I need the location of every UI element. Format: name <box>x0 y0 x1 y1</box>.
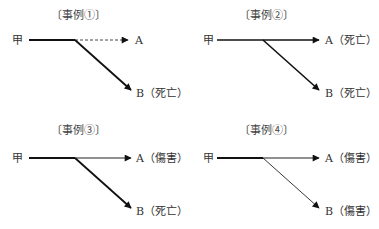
case-1: 〔事例①〕 甲 A B（死亡） <box>12 8 188 100</box>
case-1-arrow-b <box>75 40 131 90</box>
case-3-arrow-b <box>75 158 131 208</box>
case-4-arrow-b <box>263 158 319 208</box>
case-3: 〔事例③〕 甲 A（傷害） B（死亡） <box>12 123 188 218</box>
case-4-origin-label: 甲 <box>203 152 214 165</box>
case-2-b-label: B（死亡） <box>325 86 377 100</box>
case-3-b-label: B（死亡） <box>136 204 188 218</box>
case-3-a-label: A（傷害） <box>135 151 188 165</box>
case-diagrams: 〔事例①〕 甲 A B（死亡） 〔事例②〕 甲 A（死亡） B（死亡） 〔事例③… <box>0 0 379 229</box>
case-3-title: 〔事例③〕 <box>51 123 106 137</box>
case-2: 〔事例②〕 甲 A（死亡） B（死亡） <box>203 8 377 100</box>
case-1-origin-label: 甲 <box>12 34 23 47</box>
case-4: 〔事例④〕 甲 A（傷害） B（傷害） <box>203 123 377 218</box>
case-2-arrow-b <box>263 40 319 90</box>
case-1-b-label: B（死亡） <box>136 86 188 100</box>
case-4-a-label: A（傷害） <box>324 151 377 165</box>
case-3-origin-label: 甲 <box>12 152 23 165</box>
case-1-title: 〔事例①〕 <box>51 8 106 22</box>
case-2-a-label: A（死亡） <box>324 33 377 47</box>
case-2-origin-label: 甲 <box>203 34 214 47</box>
case-4-title: 〔事例④〕 <box>239 123 294 137</box>
case-4-b-label: B（傷害） <box>325 204 377 218</box>
case-1-a-label: A <box>134 34 144 47</box>
case-2-title: 〔事例②〕 <box>239 8 294 22</box>
